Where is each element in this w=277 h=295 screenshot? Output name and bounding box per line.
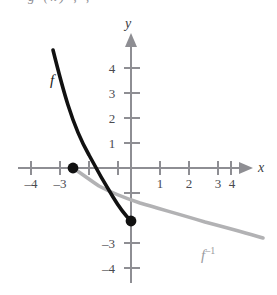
x-axis-arrowhead: [239, 162, 253, 174]
y-axis-arrowhead: [125, 33, 137, 47]
x-tick-label-1: 1: [151, 176, 169, 192]
x-tick-label-4: 4: [223, 176, 241, 192]
x-axis-label: x: [258, 160, 264, 176]
x-tick-label--4: –4: [21, 176, 41, 192]
curve-label-f: f: [50, 72, 54, 89]
y-tick-label--3: –3: [97, 236, 120, 252]
curve-label-f-inverse: f–1: [201, 245, 215, 264]
y-tick-label-2: 2: [104, 111, 120, 127]
y-tick-label--4: –4: [97, 261, 120, 277]
x-tick-label-2: 2: [180, 176, 198, 192]
x-tick-label--3: –3: [50, 176, 70, 192]
y-tick-label-1: 1: [104, 136, 120, 152]
point-f-endpoint: [126, 216, 137, 227]
axes-group: [18, 33, 253, 283]
y-tick-label-4: 4: [104, 61, 120, 77]
graph-canvas: [0, 0, 277, 295]
y-tick-label-3: 3: [104, 86, 120, 102]
curve-label-f-inverse-exponent: –1: [205, 245, 215, 256]
point-f-inverse-endpoint: [68, 163, 79, 174]
function-graph-figure: g (x) , ,: [0, 0, 277, 295]
y-axis-label: y: [125, 16, 131, 32]
